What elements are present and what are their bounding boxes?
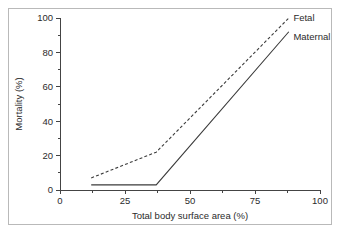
y-axis-title: Mortality (%) — [13, 77, 24, 130]
tick-labels-group: 0204060801000255075100 — [37, 12, 328, 206]
series-label-maternal: Maternal — [293, 31, 330, 42]
x-tick-label: 0 — [57, 195, 62, 206]
y-tick-label: 80 — [42, 47, 53, 58]
y-tick-label: 100 — [37, 12, 53, 23]
series-label-fetal: Fetal — [293, 12, 314, 23]
y-tick-label: 40 — [42, 116, 53, 127]
x-tick-label: 75 — [250, 195, 261, 206]
series-line-fetal — [91, 18, 289, 178]
y-tick-label: 20 — [42, 150, 53, 161]
figure-root: 0204060801000255075100 FetalMaternal Mor… — [0, 0, 345, 238]
x-axis-title: Total body surface area (%) — [132, 210, 248, 221]
x-tick-label: 100 — [312, 195, 328, 206]
y-tick-label: 60 — [42, 81, 53, 92]
x-tick-label: 25 — [120, 195, 131, 206]
series-line-maternal — [91, 32, 289, 185]
mortality-line-chart: 0204060801000255075100 FetalMaternal Mor… — [0, 0, 345, 238]
series-labels-group: FetalMaternal — [293, 12, 330, 42]
axes-group — [60, 18, 320, 190]
y-tick-label: 0 — [48, 184, 53, 195]
series-group — [91, 18, 289, 185]
axis-spines — [60, 18, 320, 190]
ticks-group — [56, 18, 320, 194]
x-tick-label: 50 — [185, 195, 196, 206]
